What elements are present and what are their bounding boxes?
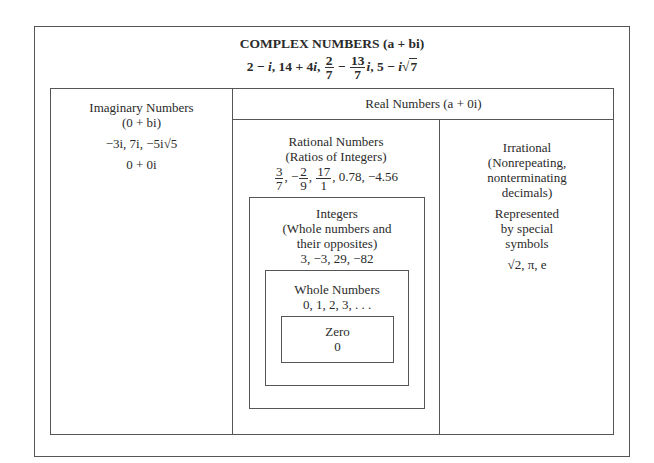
irrational-desc-2: nonterminating bbox=[440, 170, 614, 185]
real-header-divider bbox=[232, 119, 614, 120]
imaginary-examples: −3i, 7i, −5i√5 bbox=[51, 136, 232, 151]
imaginary-form: (0 + bi) bbox=[51, 115, 232, 130]
whole-numbers-section: Whole Numbers 0, 1, 2, 3, . . . bbox=[265, 282, 409, 312]
integers-examples: 3, −3, 29, −82 bbox=[249, 251, 425, 266]
integers-section: Integers (Whole numbers and their opposi… bbox=[249, 206, 425, 266]
complex-numbers-title: COMPLEX NUMBERS (a + bi) bbox=[34, 36, 630, 51]
irrational-title: Irrational bbox=[440, 140, 614, 155]
imaginary-title: Imaginary Numbers bbox=[51, 100, 232, 115]
integers-desc-1: (Whole numbers and bbox=[249, 221, 425, 236]
zero-value: 0 bbox=[281, 339, 394, 354]
rational-numbers-section: Rational Numbers (Ratios of Integers) 37… bbox=[233, 134, 439, 192]
irrational-desc-3: decimals) bbox=[440, 185, 614, 200]
irrational-section: Irrational (Nonrepeating, nonterminating… bbox=[440, 140, 614, 272]
integers-title: Integers bbox=[249, 206, 425, 221]
rational-examples: 37, −29, 171, 0.78, −4.56 bbox=[233, 165, 439, 192]
rational-title: Rational Numbers bbox=[233, 134, 439, 149]
imaginary-zero: 0 + 0i bbox=[51, 157, 232, 172]
irrational-desc-6: symbols bbox=[440, 236, 614, 251]
integers-desc-2: their opposites) bbox=[249, 236, 425, 251]
imaginary-numbers-section: Imaginary Numbers (0 + bi) −3i, 7i, −5i√… bbox=[51, 100, 232, 172]
irrational-desc-4: Represented bbox=[440, 206, 614, 221]
complex-numbers-examples: 2 − i, 14 + 4i, 27 − 137i, 5 − i√7 bbox=[34, 52, 630, 82]
whole-examples: 0, 1, 2, 3, . . . bbox=[265, 297, 409, 312]
real-numbers-title: Real Numbers (a + 0i) bbox=[233, 96, 614, 111]
rational-subtitle: (Ratios of Integers) bbox=[233, 149, 439, 164]
zero-section: Zero 0 bbox=[281, 324, 394, 354]
irrational-desc-5: by special bbox=[440, 221, 614, 236]
zero-title: Zero bbox=[281, 324, 394, 339]
whole-title: Whole Numbers bbox=[265, 282, 409, 297]
irrational-desc-1: (Nonrepeating, bbox=[440, 155, 614, 170]
irrational-examples: √2, π, e bbox=[440, 257, 614, 272]
